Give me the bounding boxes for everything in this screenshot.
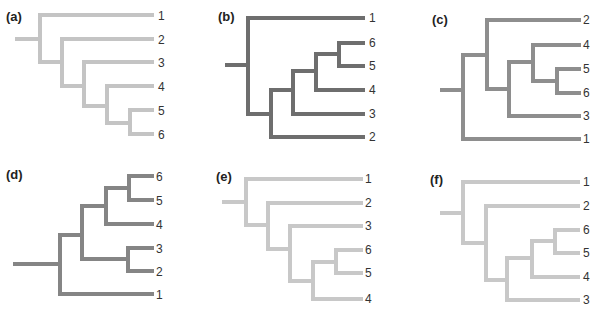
leaf-label: 6	[369, 37, 376, 49]
leaf-label: 1	[583, 176, 590, 188]
leaf-label: 6	[583, 87, 590, 99]
leaf-label: 2	[583, 14, 590, 26]
leaf-label: 1	[369, 12, 376, 24]
leaf-label: 4	[369, 84, 376, 96]
leaf-label: 5	[156, 195, 163, 207]
tree-b	[195, 0, 392, 155]
leaf-label: 2	[369, 131, 376, 143]
leaf-label: 2	[156, 266, 163, 278]
leaf-label: 4	[583, 39, 590, 51]
tree-f	[390, 155, 591, 310]
leaf-label: 4	[365, 293, 372, 305]
leaf-label: 3	[365, 220, 372, 232]
leaf-label: 5	[583, 63, 590, 75]
panel-a: (a) 1 2 3 4 5 6	[0, 0, 197, 155]
leaf-label: 2	[583, 200, 590, 212]
tree-d	[0, 155, 197, 310]
leaf-label: 1	[158, 10, 165, 22]
leaf-label: 2	[365, 197, 372, 209]
leaf-label: 6	[156, 171, 163, 183]
leaf-label: 3	[369, 108, 376, 120]
panel-b: (b) 1 6 5 4 3 2	[195, 0, 392, 155]
leaf-label: 3	[583, 110, 590, 122]
leaf-label: 3	[583, 294, 590, 306]
tree-c	[390, 0, 591, 155]
panel-d: (d) 6 5 4 3 2 1	[0, 155, 197, 310]
leaf-label: 1	[583, 133, 590, 145]
tree-e	[195, 155, 392, 310]
leaf-label: 6	[158, 129, 165, 141]
tree-a	[0, 0, 197, 155]
leaf-label: 5	[369, 60, 376, 72]
panel-c: (c) 2 4 5 6 3 1	[390, 0, 587, 155]
leaf-label: 5	[365, 267, 372, 279]
leaf-label: 4	[156, 219, 163, 231]
leaf-label: 6	[583, 224, 590, 236]
leaf-label: 3	[156, 243, 163, 255]
leaf-label: 5	[583, 247, 590, 259]
panel-e: (e) 1 2 3 6 5 4	[195, 155, 392, 310]
leaf-label: 1	[156, 289, 163, 301]
leaf-label: 5	[158, 105, 165, 117]
leaf-label: 3	[158, 57, 165, 69]
leaf-label: 1	[365, 173, 372, 185]
leaf-label: 4	[158, 81, 165, 93]
leaf-label: 2	[158, 34, 165, 46]
panel-f: (f) 1 2 6 5 4 3	[390, 155, 587, 310]
leaf-label: 4	[583, 271, 590, 283]
leaf-label: 6	[365, 244, 372, 256]
